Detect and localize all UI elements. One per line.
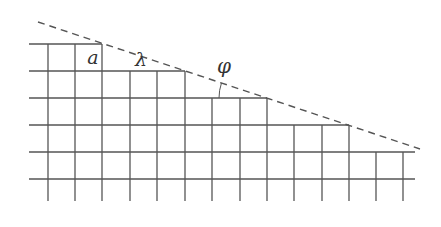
label-lambda: λ bbox=[135, 50, 147, 69]
angle-arc bbox=[219, 83, 222, 98]
label-phi: φ bbox=[217, 56, 231, 76]
lattice-diagram bbox=[0, 0, 441, 227]
label-a: a bbox=[87, 48, 98, 67]
dashed-incline-line bbox=[38, 22, 420, 149]
